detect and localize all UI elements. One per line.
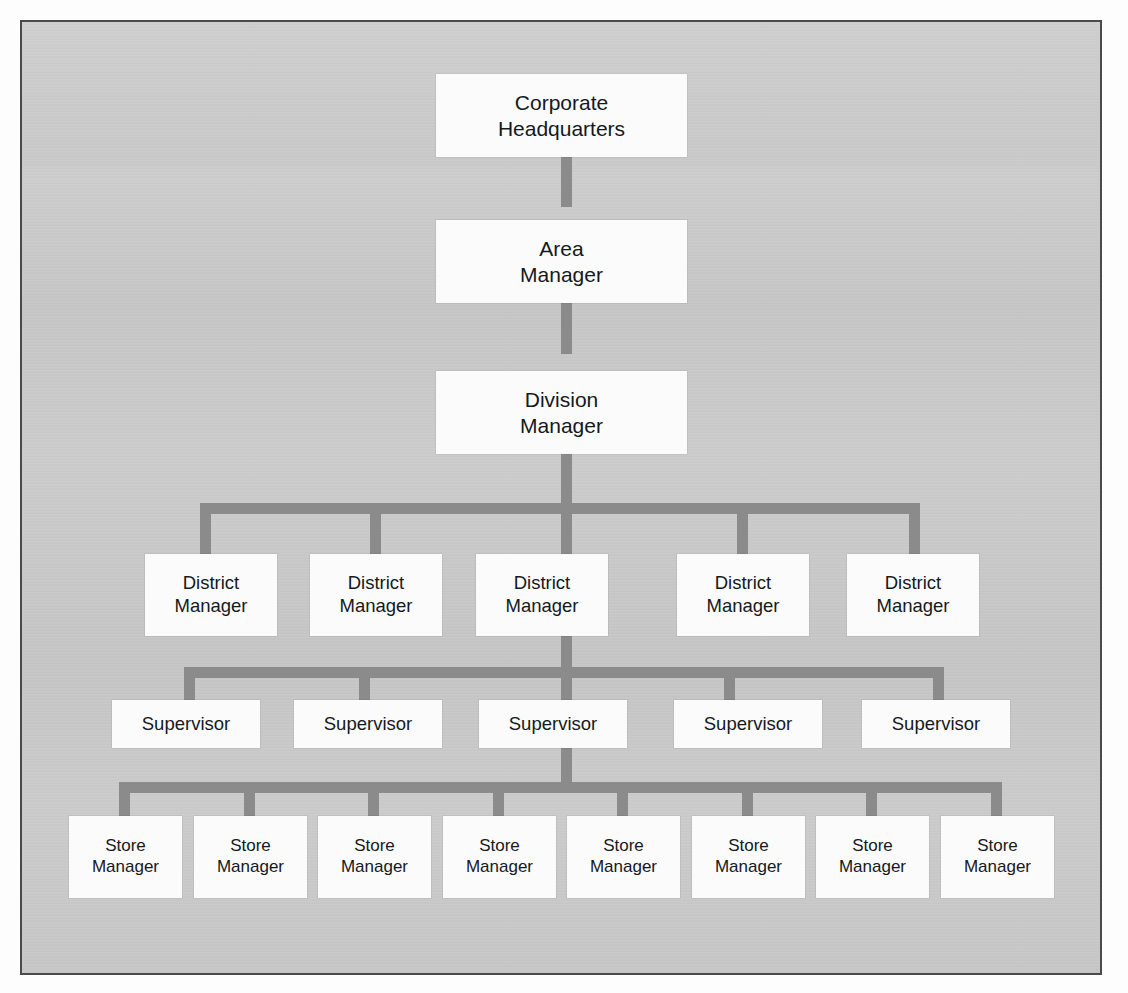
node-area-manager[interactable]: Area Manager (436, 220, 687, 303)
node-division-manager[interactable]: Division Manager (436, 371, 687, 454)
node-label: Store Manager (964, 836, 1031, 877)
node-store-manager-7[interactable]: Store Manager (816, 816, 929, 898)
node-store-manager-8[interactable]: Store Manager (941, 816, 1054, 898)
org-chart-canvas: Corporate Headquarters Area Manager Divi… (0, 0, 1128, 993)
node-label: Store Manager (590, 836, 657, 877)
connector-store-drop-4 (493, 782, 504, 816)
connector-district-drop-5 (909, 503, 920, 554)
node-label: Store Manager (715, 836, 782, 877)
node-store-manager-3[interactable]: Store Manager (318, 816, 431, 898)
connector-store-drop-2 (244, 782, 255, 816)
node-label: District Manager (706, 572, 779, 617)
node-label: Supervisor (704, 713, 792, 736)
node-store-manager-6[interactable]: Store Manager (692, 816, 805, 898)
chart-frame: Corporate Headquarters Area Manager Divi… (20, 20, 1102, 975)
node-label: Supervisor (142, 713, 230, 736)
node-supervisor-5[interactable]: Supervisor (862, 700, 1010, 748)
node-label: Area Manager (520, 236, 603, 287)
node-label: Store Manager (217, 836, 284, 877)
connector-district-drop-2 (370, 503, 381, 554)
connector-store-drop-5 (617, 782, 628, 816)
node-supervisor-3[interactable]: Supervisor (479, 700, 627, 748)
node-supervisor-1[interactable]: Supervisor (112, 700, 260, 748)
connector-store-drop-7 (866, 782, 877, 816)
node-district-manager-3[interactable]: District Manager (476, 554, 608, 636)
node-corporate-headquarters[interactable]: Corporate Headquarters (436, 74, 687, 157)
node-store-manager-2[interactable]: Store Manager (194, 816, 307, 898)
node-store-manager-5[interactable]: Store Manager (567, 816, 680, 898)
node-district-manager-2[interactable]: District Manager (310, 554, 442, 636)
connector-district-drop-1 (200, 503, 211, 554)
node-label: Store Manager (341, 836, 408, 877)
node-label: District Manager (339, 572, 412, 617)
connector-store-drop-1 (119, 782, 130, 816)
node-label: Store Manager (839, 836, 906, 877)
node-supervisor-2[interactable]: Supervisor (294, 700, 442, 748)
node-label: Store Manager (92, 836, 159, 877)
node-district-manager-4[interactable]: District Manager (677, 554, 809, 636)
connector-store-drop-8 (991, 782, 1002, 816)
node-label: Corporate Headquarters (498, 90, 625, 141)
connector-district-drop-3 (561, 503, 572, 554)
node-supervisor-4[interactable]: Supervisor (674, 700, 822, 748)
node-label: District Manager (174, 572, 247, 617)
node-label: District Manager (876, 572, 949, 617)
node-label: Supervisor (324, 713, 412, 736)
node-label: District Manager (505, 572, 578, 617)
connector-store-drop-6 (742, 782, 753, 816)
connector-store-drop-3 (368, 782, 379, 816)
node-label: Supervisor (509, 713, 597, 736)
node-label: Supervisor (892, 713, 980, 736)
connector-district-drop-4 (737, 503, 748, 554)
node-store-manager-4[interactable]: Store Manager (443, 816, 556, 898)
connector-district-bus (200, 503, 920, 514)
node-district-manager-5[interactable]: District Manager (847, 554, 979, 636)
node-label: Division Manager (520, 387, 603, 438)
node-district-manager-1[interactable]: District Manager (145, 554, 277, 636)
node-label: Store Manager (466, 836, 533, 877)
node-store-manager-1[interactable]: Store Manager (69, 816, 182, 898)
